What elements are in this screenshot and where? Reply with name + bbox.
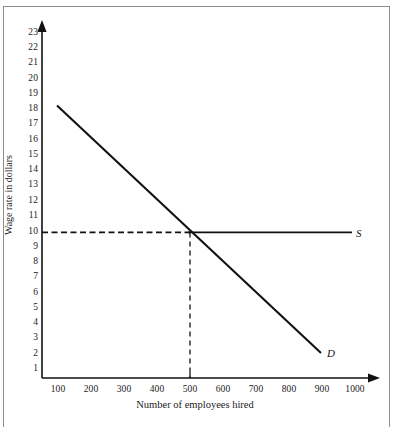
y-tick-label: 20 [18, 73, 38, 83]
y-tick-label: 23 [18, 27, 38, 37]
demand-curve [57, 106, 321, 354]
x-axis-arrow-icon [368, 373, 380, 382]
y-tick-label: 13 [18, 179, 38, 189]
y-tick-label: 9 [18, 241, 38, 251]
y-tick-label: 21 [18, 57, 38, 67]
y-tick-label: 3 [18, 332, 38, 342]
supply-curve-label: S [356, 227, 362, 239]
y-tick-label: 2 [18, 348, 38, 358]
y-axis-arrow-icon [37, 20, 46, 32]
y-tick-label: 11 [18, 210, 38, 220]
y-tick-label: 17 [18, 118, 38, 128]
y-tick-label: 12 [18, 195, 38, 205]
y-tick-label: 6 [18, 287, 38, 297]
y-tick-label: 4 [18, 317, 38, 327]
y-tick-label: 14 [18, 164, 38, 174]
x-tick-label: 1000 [335, 384, 375, 394]
y-tick-label: 1 [18, 363, 38, 373]
chart-page: 23 22 21 20 19 18 17 16 15 14 13 12 11 1… [0, 0, 395, 429]
y-tick-label: 8 [18, 256, 38, 266]
y-axis-title: Wage rate in dollars [3, 130, 14, 260]
y-tick-label: 16 [18, 134, 38, 144]
y-tick-label: 15 [18, 149, 38, 159]
chart-plot-area [0, 0, 395, 429]
y-tick-label: 18 [18, 103, 38, 113]
y-tick-label: 22 [18, 42, 38, 52]
demand-curve-label: D [327, 347, 335, 359]
y-tick-label: 19 [18, 88, 38, 98]
x-axis-title: Number of employees hired [60, 399, 330, 410]
y-tick-label: 5 [18, 302, 38, 312]
y-tick-label: 10 [18, 226, 38, 236]
y-tick-label: 7 [18, 271, 38, 281]
